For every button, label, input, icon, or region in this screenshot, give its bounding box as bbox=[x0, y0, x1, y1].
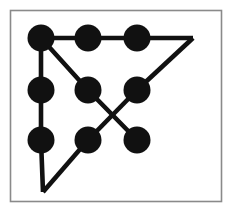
dot-bottom-right bbox=[124, 127, 151, 154]
dot-top-right bbox=[124, 25, 151, 52]
dot-top-center bbox=[75, 25, 102, 52]
dot-middle-left bbox=[28, 77, 55, 104]
dot-grid bbox=[28, 25, 151, 154]
dot-bottom-left bbox=[28, 127, 55, 154]
path-bottom-apex-to-top-left bbox=[41, 38, 43, 192]
dot-middle-center bbox=[75, 77, 102, 104]
dot-top-left bbox=[28, 25, 55, 52]
nine-dots-diagram bbox=[0, 0, 230, 216]
dot-middle-right bbox=[124, 77, 151, 104]
figure-container bbox=[0, 0, 230, 216]
dot-bottom-center bbox=[75, 127, 102, 154]
